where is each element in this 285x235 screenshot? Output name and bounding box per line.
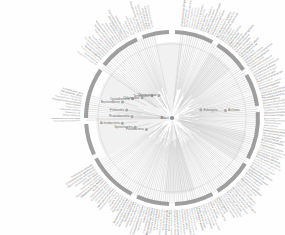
internal-node-label: Firmicutes	[110, 108, 125, 112]
branch	[192, 100, 256, 114]
internal-node-label: Eukaryota	[203, 108, 217, 112]
root-label: Bact	[160, 115, 169, 120]
clade-arc	[86, 124, 94, 154]
clade-arc	[143, 32, 169, 37]
internal-node-label: Thermotogae	[138, 93, 157, 97]
internal-node-label: Archaea	[228, 108, 240, 112]
phylogenetic-tree: Escherichia coliSalmonella entericaShige…	[0, 0, 285, 235]
clade-arc	[248, 112, 258, 158]
leaf-label: Pyrococcus furiosus	[264, 114, 285, 117]
internal-node-label: Proteobacteria	[109, 114, 129, 118]
internal-node-label: Fusobacteria	[126, 127, 144, 131]
root-dot[interactable]	[170, 116, 174, 120]
clade-arc	[137, 197, 169, 204]
figure-canvas: Escherichia coliSalmonella entericaShige…	[0, 0, 285, 235]
branch	[195, 113, 258, 116]
